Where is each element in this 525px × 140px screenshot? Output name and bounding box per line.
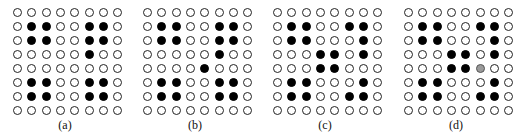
- empty-dot: [42, 64, 51, 73]
- empty-dot: [13, 22, 22, 31]
- empty-dot: [70, 22, 79, 31]
- filled-dot: [200, 64, 209, 73]
- empty-dot: [186, 92, 195, 101]
- empty-dot: [476, 50, 485, 59]
- panel-d: (d): [391, 0, 521, 140]
- empty-dot: [243, 50, 252, 59]
- empty-dot: [243, 22, 252, 31]
- empty-dot: [13, 92, 22, 101]
- empty-dot: [243, 8, 252, 17]
- empty-dot: [461, 106, 470, 115]
- empty-dot: [186, 78, 195, 87]
- filled-dot: [229, 22, 238, 31]
- empty-dot: [373, 8, 382, 17]
- filled-dot: [99, 92, 108, 101]
- empty-dot: [447, 36, 456, 45]
- empty-dot: [200, 22, 209, 31]
- empty-dot: [143, 22, 152, 31]
- empty-dot: [273, 50, 282, 59]
- empty-dot: [273, 78, 282, 87]
- empty-dot: [490, 8, 499, 17]
- filled-dot: [99, 78, 108, 87]
- empty-dot: [447, 8, 456, 17]
- empty-dot: [243, 64, 252, 73]
- empty-dot: [229, 50, 238, 59]
- empty-dot: [345, 8, 354, 17]
- empty-dot: [70, 36, 79, 45]
- empty-dot: [143, 8, 152, 17]
- empty-dot: [418, 8, 427, 17]
- empty-dot: [404, 64, 413, 73]
- empty-dot: [316, 36, 325, 45]
- empty-dot: [243, 92, 252, 101]
- empty-dot: [476, 36, 485, 45]
- empty-dot: [504, 106, 513, 115]
- empty-dot: [373, 36, 382, 45]
- empty-dot: [99, 8, 108, 17]
- empty-dot: [373, 22, 382, 31]
- empty-dot: [27, 50, 36, 59]
- empty-dot: [113, 36, 122, 45]
- empty-dot: [186, 50, 195, 59]
- filled-dot: [418, 92, 427, 101]
- empty-dot: [504, 92, 513, 101]
- empty-dot: [56, 106, 65, 115]
- filled-dot: [42, 78, 51, 87]
- filled-dot: [229, 36, 238, 45]
- filled-dot: [302, 22, 311, 31]
- empty-dot: [56, 22, 65, 31]
- empty-dot: [316, 78, 325, 87]
- empty-dot: [143, 50, 152, 59]
- empty-dot: [461, 36, 470, 45]
- empty-dot: [273, 22, 282, 31]
- panel-c: (c): [260, 0, 390, 140]
- empty-dot: [157, 8, 166, 17]
- empty-dot: [70, 8, 79, 17]
- filled-dot: [359, 22, 368, 31]
- empty-dot: [404, 92, 413, 101]
- empty-dot: [157, 50, 166, 59]
- empty-dot: [143, 64, 152, 73]
- empty-dot: [229, 106, 238, 115]
- empty-dot: [504, 8, 513, 17]
- filled-dot: [490, 50, 499, 59]
- empty-dot: [143, 36, 152, 45]
- filled-dot: [490, 78, 499, 87]
- empty-dot: [13, 36, 22, 45]
- empty-dot: [302, 50, 311, 59]
- empty-dot: [200, 78, 209, 87]
- empty-dot: [113, 22, 122, 31]
- empty-dot: [186, 36, 195, 45]
- empty-dot: [200, 50, 209, 59]
- filled-dot: [359, 92, 368, 101]
- empty-dot: [447, 78, 456, 87]
- empty-dot: [215, 106, 224, 115]
- empty-dot: [404, 106, 413, 115]
- empty-dot: [99, 50, 108, 59]
- empty-dot: [70, 50, 79, 59]
- filled-dot: [157, 36, 166, 45]
- empty-dot: [186, 8, 195, 17]
- empty-dot: [243, 106, 252, 115]
- empty-dot: [287, 64, 296, 73]
- empty-dot: [13, 78, 22, 87]
- empty-dot: [316, 8, 325, 17]
- filled-dot: [302, 36, 311, 45]
- empty-dot: [404, 22, 413, 31]
- empty-dot: [461, 78, 470, 87]
- empty-dot: [186, 22, 195, 31]
- filled-dot: [42, 92, 51, 101]
- empty-dot: [433, 64, 442, 73]
- empty-dot: [316, 22, 325, 31]
- empty-dot: [345, 106, 354, 115]
- empty-dot: [345, 78, 354, 87]
- filled-dot: [447, 64, 456, 73]
- panel-label: (a): [0, 118, 130, 133]
- empty-dot: [113, 106, 122, 115]
- empty-dot: [243, 36, 252, 45]
- empty-dot: [42, 106, 51, 115]
- filled-dot: [27, 78, 36, 87]
- empty-dot: [85, 106, 94, 115]
- empty-dot: [359, 8, 368, 17]
- empty-dot: [186, 106, 195, 115]
